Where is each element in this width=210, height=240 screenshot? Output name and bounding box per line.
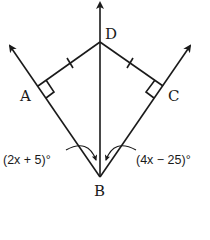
segment-dc [100, 42, 163, 86]
point-label-d: D [105, 25, 117, 43]
tick-mark-dc [127, 58, 133, 68]
angle-arrow-right [106, 146, 136, 160]
right-angle-marker-a [46, 80, 54, 98]
point-label-c: C [168, 87, 179, 105]
angle-label-left: (2x + 5)° [3, 153, 51, 167]
angle-arrow-left [66, 146, 96, 160]
right-angle-marker-c [146, 80, 155, 98]
segment-da [38, 42, 100, 86]
tick-mark-da [67, 58, 73, 68]
point-label-a: A [20, 87, 31, 105]
angle-label-right: (4x − 25)° [136, 153, 191, 167]
point-label-b: B [94, 182, 105, 200]
